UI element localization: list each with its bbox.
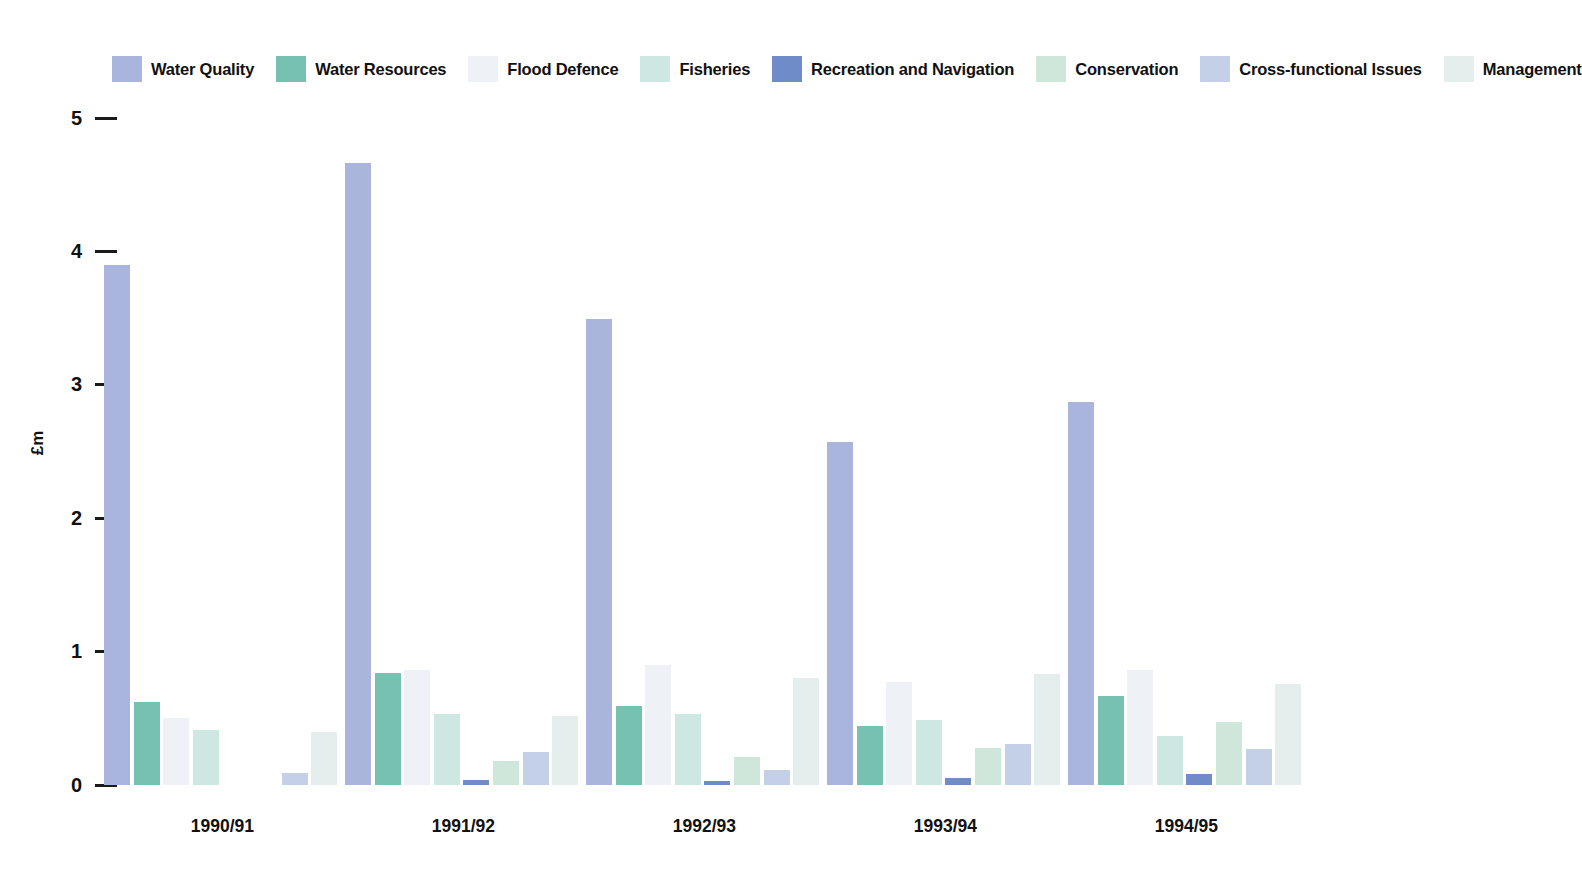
bar — [493, 761, 519, 785]
legend-label: Management — [1483, 60, 1582, 79]
bar — [645, 665, 671, 785]
bar — [523, 752, 549, 785]
bar — [1068, 402, 1094, 785]
bar — [345, 163, 371, 785]
x-axis-group-label: 1990/91 — [84, 816, 361, 837]
bar — [434, 714, 460, 785]
bar — [1275, 684, 1301, 785]
bar — [704, 781, 730, 785]
bar — [1005, 744, 1031, 785]
bar — [1127, 670, 1153, 785]
bar — [282, 773, 308, 785]
bar — [945, 778, 971, 785]
bar — [104, 265, 130, 785]
bar — [463, 780, 489, 785]
bar — [827, 442, 853, 785]
legend-swatch-icon — [1444, 56, 1474, 82]
bar — [616, 706, 642, 785]
bar — [163, 718, 189, 785]
bar — [857, 726, 883, 785]
bar — [1186, 774, 1212, 785]
bar — [193, 730, 219, 785]
bar — [764, 770, 790, 785]
bar — [1157, 736, 1183, 785]
x-axis-group-label: 1991/92 — [325, 816, 602, 837]
bar — [886, 682, 912, 785]
bar — [311, 732, 337, 785]
bar — [552, 716, 578, 785]
x-axis-group-label: 1994/95 — [1048, 816, 1325, 837]
bar — [134, 702, 160, 785]
bar — [675, 714, 701, 785]
bar — [734, 757, 760, 785]
bar — [404, 670, 430, 785]
bar — [586, 319, 612, 785]
bar — [1034, 674, 1060, 785]
x-axis-group-label: 1993/94 — [807, 816, 1084, 837]
bar — [916, 720, 942, 785]
bar — [793, 678, 819, 785]
bar — [1098, 696, 1124, 785]
x-axis-group-label: 1992/93 — [566, 816, 843, 837]
bar — [1246, 749, 1272, 785]
bar — [375, 673, 401, 785]
legend-item: Management — [1444, 56, 1582, 82]
bar — [1216, 722, 1242, 785]
bar — [975, 748, 1001, 785]
